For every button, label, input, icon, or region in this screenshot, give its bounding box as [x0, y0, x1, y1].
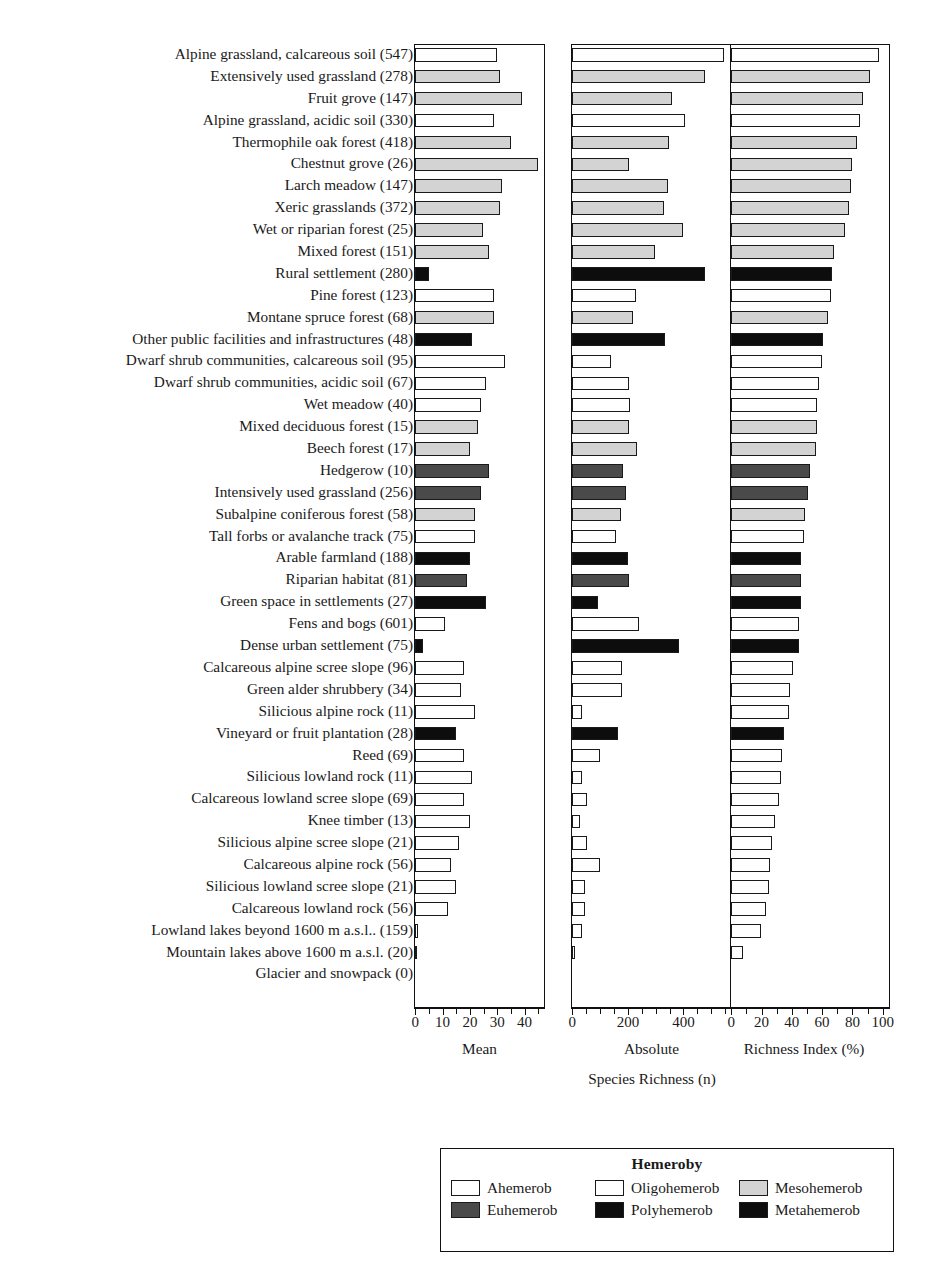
bar — [572, 880, 585, 894]
legend-item-oligohemerob: Oligohemerob — [595, 1179, 739, 1197]
category-label: Wet or riparian forest (25) — [0, 218, 413, 240]
bar — [572, 574, 629, 588]
category-label: Calcareous alpine rock (56) — [0, 853, 413, 875]
bar — [731, 858, 770, 872]
axis-tick — [642, 1008, 643, 1014]
axis-tick — [538, 1008, 539, 1014]
axis-tick-label: 0 — [569, 1014, 577, 1031]
legend-label: Euhemerob — [487, 1201, 558, 1219]
bar — [731, 48, 879, 62]
bar — [731, 158, 852, 172]
axis-tick-label: 10 — [435, 1014, 450, 1031]
x-axis-title: Species Richness (n) — [588, 1070, 715, 1088]
axis-tick-label: 80 — [845, 1014, 860, 1031]
bar — [731, 793, 779, 807]
category-label: Silicious alpine rock (11) — [0, 700, 413, 722]
bar — [731, 398, 817, 412]
bar — [415, 158, 538, 172]
bar — [415, 223, 483, 237]
panel-richness-index — [730, 44, 890, 1008]
bar — [415, 596, 486, 610]
bar — [572, 946, 575, 960]
bar — [415, 815, 470, 829]
bar — [731, 92, 863, 106]
axis-tick-label: 20 — [462, 1014, 477, 1031]
bar — [731, 639, 799, 653]
category-label: Glacier and snowpack (0) — [0, 962, 413, 984]
bar — [572, 333, 665, 347]
category-label: Extensively used grassland (278) — [0, 65, 413, 87]
bar — [731, 552, 801, 566]
category-label: Dense urban settlement (75) — [0, 634, 413, 656]
bar — [415, 574, 467, 588]
bar — [731, 267, 832, 281]
category-label: Lowland lakes beyond 1600 m a.s.l.. (159… — [0, 919, 413, 941]
category-label: Subalpine coniferous forest (58) — [0, 503, 413, 525]
category-label: Dwarf shrub communities, calcareous soil… — [0, 349, 413, 371]
axis-tick-label: 30 — [490, 1014, 505, 1031]
bar — [572, 158, 629, 172]
x-axis-richness-index — [730, 1008, 890, 1009]
bar — [731, 245, 834, 259]
category-label: Montane spruce forest (68) — [0, 306, 413, 328]
category-label: Alpine grassland, acidic soil (330) — [0, 109, 413, 131]
bar — [415, 136, 511, 150]
bar — [415, 924, 418, 938]
bar — [415, 530, 475, 544]
legend-swatch-polyhemerob — [595, 1202, 624, 1218]
bar — [572, 596, 598, 610]
legend-label: Polyhemerob — [631, 1201, 713, 1219]
category-label: Fruit grove (147) — [0, 87, 413, 109]
bar — [572, 552, 628, 566]
category-label: Thermophile oak forest (418) — [0, 131, 413, 153]
axis-tick — [456, 1008, 457, 1014]
panel-mean — [414, 44, 545, 1008]
bar — [731, 179, 851, 193]
bar — [572, 771, 582, 785]
bar — [415, 880, 456, 894]
bar — [731, 70, 870, 84]
bar — [415, 179, 502, 193]
bar — [572, 815, 580, 829]
legend-entries: AhemerobOligohemerobMesohemerobEuhemerob… — [451, 1179, 883, 1219]
bar — [731, 114, 860, 128]
bar — [572, 245, 655, 259]
bar — [415, 617, 445, 631]
category-label: Silicious alpine scree slope (21) — [0, 831, 413, 853]
bar — [572, 179, 668, 193]
bar — [415, 508, 475, 522]
bar — [731, 333, 823, 347]
plot-area-absolute — [572, 45, 731, 1007]
legend-item-mesohemerob: Mesohemerob — [739, 1179, 883, 1197]
bar — [572, 464, 623, 478]
bar — [572, 289, 636, 303]
axis-tick — [429, 1008, 430, 1014]
bar — [415, 355, 505, 369]
bar — [415, 902, 448, 916]
bar — [415, 552, 470, 566]
bar — [572, 924, 582, 938]
category-label: Wet meadow (40) — [0, 393, 413, 415]
bar — [415, 705, 475, 719]
bar — [415, 749, 464, 763]
category-label: Reed (69) — [0, 744, 413, 766]
axis-tick — [484, 1008, 485, 1014]
category-label: Other public facilities and infrastructu… — [0, 328, 413, 350]
bar — [731, 530, 804, 544]
legend-item-metahemerob: Metahemerob — [739, 1201, 883, 1219]
axis-tick-label: 40 — [784, 1014, 799, 1031]
axis-tick-label: 20 — [754, 1014, 769, 1031]
plot-area-richness-index — [731, 45, 889, 1007]
bar — [572, 836, 587, 850]
bar — [731, 508, 805, 522]
legend-swatch-euhemerob — [451, 1202, 480, 1218]
axis-tick-label: 100 — [871, 1014, 894, 1031]
bar — [415, 114, 494, 128]
legend-label: Metahemerob — [775, 1201, 860, 1219]
axis-tick — [837, 1008, 838, 1014]
bar — [731, 661, 793, 675]
bar — [572, 683, 622, 697]
bar — [572, 355, 611, 369]
bar — [572, 530, 616, 544]
legend-item-polyhemerob: Polyhemerob — [595, 1201, 739, 1219]
